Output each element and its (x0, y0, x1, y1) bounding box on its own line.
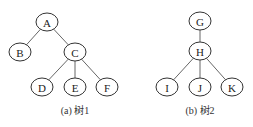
node-label: E (72, 82, 79, 94)
node-label: B (16, 47, 23, 59)
tree-1-caption: (a) 树1 (61, 104, 90, 117)
node-e: E (64, 78, 86, 96)
edge-a-c (54, 29, 69, 45)
node-label: C (71, 47, 78, 59)
tree-diagram: ABCDEF (a) 树1 GHIJK (b) 树2 (0, 0, 253, 127)
tree-2-nodes: GHIJK (156, 12, 243, 96)
node-label: J (198, 82, 203, 94)
node-i: I (156, 78, 178, 96)
node-label: I (165, 82, 169, 94)
edge-a-b (27, 29, 41, 45)
node-label: G (196, 16, 204, 28)
tree-1-nodes: ABCDEF (9, 13, 118, 96)
edge-h-k (206, 58, 225, 79)
node-j: J (189, 78, 211, 96)
edge-c-f (82, 59, 101, 80)
node-c: C (64, 43, 86, 61)
node-g: G (189, 12, 211, 30)
node-b: B (9, 43, 31, 61)
tree-1-edges (27, 29, 101, 80)
node-label: K (228, 82, 236, 94)
tree-1: ABCDEF (a) 树1 (9, 13, 118, 117)
node-label: H (196, 46, 204, 58)
node-h: H (189, 42, 211, 60)
node-label: A (43, 17, 51, 29)
node-label: F (104, 82, 110, 94)
node-a: A (36, 13, 58, 31)
node-label: D (38, 82, 46, 94)
node-k: K (221, 78, 243, 96)
tree-2: GHIJK (b) 树2 (156, 12, 243, 117)
edge-h-i (174, 58, 194, 80)
node-f: F (96, 78, 118, 96)
edge-c-d (49, 59, 69, 80)
tree-2-caption: (b) 树2 (185, 104, 214, 117)
node-d: D (31, 78, 53, 96)
